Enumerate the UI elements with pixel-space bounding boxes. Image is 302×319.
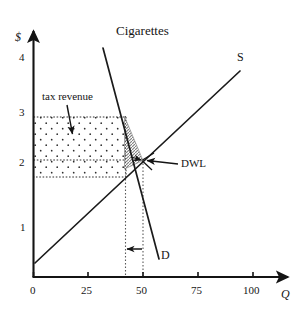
x-tick-label-75: 75 bbox=[191, 285, 202, 296]
y-axis-title: $ bbox=[15, 31, 21, 43]
dwl-leader-arrow-upper bbox=[143, 153, 155, 160]
x-tick-label-25: 25 bbox=[81, 285, 92, 296]
y-tick-label-3: 3 bbox=[19, 107, 25, 118]
x-axis-title: Q bbox=[281, 288, 290, 300]
tax-revenue-fill bbox=[34, 117, 127, 177]
dwl-label: DWL bbox=[181, 158, 206, 169]
supply-curve-label: S bbox=[237, 51, 244, 63]
demand-curve-label: D bbox=[161, 249, 170, 261]
chart-canvas bbox=[0, 0, 302, 319]
tax-revenue-label: tax revenue bbox=[42, 91, 93, 102]
y-tick-label-2: 2 bbox=[19, 157, 25, 168]
economics-supply-demand-figure: Cigarettes $ Q 4 3 2 1 0 25 50 75 100 S … bbox=[0, 0, 302, 319]
x-tick-label-0: 0 bbox=[30, 285, 36, 296]
x-tick-label-50: 50 bbox=[136, 285, 147, 296]
x-tick-label-100: 100 bbox=[243, 285, 260, 296]
tax-revenue-region bbox=[34, 117, 127, 177]
dwl-leader-arrow bbox=[147, 161, 178, 165]
y-tick-label-1: 1 bbox=[20, 222, 26, 233]
y-tick-label-4: 4 bbox=[19, 52, 25, 63]
chart-title: Cigarettes bbox=[116, 24, 169, 37]
dwl-leader-arrow-lower bbox=[143, 161, 153, 170]
